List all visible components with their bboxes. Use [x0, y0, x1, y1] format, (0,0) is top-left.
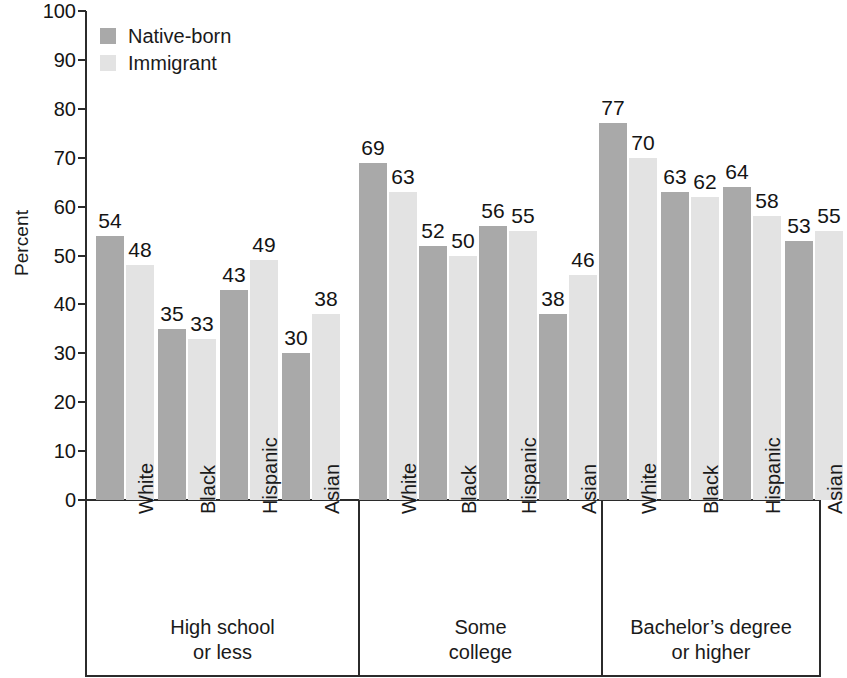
- bar-value-label: 64: [715, 161, 759, 182]
- category-label: White: [639, 394, 659, 514]
- bar: [220, 290, 248, 500]
- bar: [96, 236, 124, 500]
- bar: [539, 314, 567, 500]
- bar-value-label: 54: [88, 210, 132, 231]
- group-title: Somecollege: [360, 615, 601, 665]
- y-axis-tick-label: 70: [24, 148, 76, 168]
- y-axis-tick-label: 10: [24, 441, 76, 461]
- category-label: White: [136, 394, 156, 514]
- category-label: Black: [701, 394, 721, 514]
- bar-value-label: 58: [745, 190, 789, 211]
- group-title-line: Bachelor’s degree: [603, 615, 819, 640]
- category-label: Hispanic: [519, 394, 539, 514]
- bar-value-label: 69: [351, 137, 395, 158]
- bar: [419, 246, 447, 500]
- bar-value-label: 33: [180, 313, 224, 334]
- bar-value-label: 49: [242, 234, 286, 255]
- bar: [479, 226, 507, 500]
- bar-value-label: 38: [304, 288, 348, 309]
- y-axis-tick-label: 40: [24, 294, 76, 314]
- y-axis-tick-label: 30: [24, 343, 76, 363]
- bar-value-label: 77: [591, 97, 635, 118]
- y-axis-tick-label: 80: [24, 99, 76, 119]
- group-title-line: or higher: [603, 640, 819, 665]
- group-title: High schoolor less: [87, 615, 358, 665]
- bar-value-label: 55: [807, 205, 847, 226]
- group-panel: WhiteBlackHispanicAsianSomecollege: [358, 500, 603, 677]
- y-axis-tick-label: 60: [24, 197, 76, 217]
- bar-value-label: 70: [621, 132, 665, 153]
- y-axis-tick-label: 0: [24, 490, 76, 510]
- category-label: Black: [459, 394, 479, 514]
- group-title-line: Some: [360, 615, 601, 640]
- category-label: Asian: [579, 394, 599, 514]
- category-label: Hispanic: [260, 394, 280, 514]
- group-panel: WhiteBlackHispanicAsianHigh schoolor les…: [85, 500, 360, 677]
- category-label: Black: [198, 394, 218, 514]
- category-label: Asian: [825, 394, 845, 514]
- y-axis-tick-label: 50: [24, 246, 76, 266]
- group-label-panels: WhiteBlackHispanicAsianHigh schoolor les…: [85, 500, 821, 677]
- group-title-line: college: [360, 640, 601, 665]
- bar: [282, 353, 310, 500]
- bar: [599, 123, 627, 500]
- bar-value-label: 63: [381, 166, 425, 187]
- y-axis-tick-labels: 1009080706050403020100: [20, 0, 76, 678]
- bar-value-label: 48: [118, 239, 162, 260]
- bar: [723, 187, 751, 500]
- bar-value-label: 55: [501, 205, 545, 226]
- category-label: Hispanic: [763, 394, 783, 514]
- category-label: Asian: [322, 394, 342, 514]
- bar: [158, 329, 186, 500]
- bar: [359, 163, 387, 500]
- y-axis-tick-label: 20: [24, 392, 76, 412]
- y-axis-tick-label: 100: [24, 1, 76, 21]
- group-title-line: High school: [87, 615, 358, 640]
- bar: [785, 241, 813, 500]
- group-title: Bachelor’s degreeor higher: [603, 615, 819, 665]
- bar: [661, 192, 689, 500]
- group-title-line: or less: [87, 640, 358, 665]
- category-label: White: [399, 394, 419, 514]
- group-panel: WhiteBlackHispanicAsianBachelor’s degree…: [601, 500, 821, 677]
- y-axis-tick-label: 90: [24, 50, 76, 70]
